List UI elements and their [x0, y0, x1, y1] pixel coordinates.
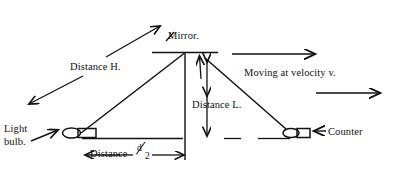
label-distance-l: Distance L.: [192, 99, 242, 111]
beam-direction-arrow-to-mirror: [200, 56, 202, 79]
distance-h-leader-upper: [106, 26, 160, 57]
fraction-d-over-2: d 2: [135, 143, 157, 163]
label-light-bulb-line1: Light: [4, 122, 27, 135]
distance-h-leader-lower: [29, 76, 83, 104]
counter-detector-shape: [283, 128, 310, 137]
light-bulb-label-pointer: [31, 130, 58, 141]
label-distance-d-word: Distance: [90, 148, 128, 160]
diagram-vector-layer: [0, 0, 396, 172]
label-light-bulb: Light bulb.: [4, 122, 27, 148]
label-counter: Counter: [328, 126, 363, 138]
label-distance-h: Distance H.: [70, 61, 121, 73]
light-bulb-shape: [63, 128, 97, 138]
label-moving-at-velocity: Moving at velocity v.: [244, 67, 336, 79]
figure-canvas: Light bulb. Distance H. Mirror. Distance…: [0, 0, 396, 172]
label-mirror: Mirror.: [168, 30, 199, 42]
label-light-bulb-line2: bulb.: [4, 135, 27, 148]
fraction-denominator: 2: [145, 151, 150, 161]
